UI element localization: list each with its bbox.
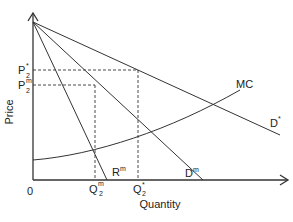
svg-text:Q: Q (89, 183, 98, 195)
q-m-label: Q m 2 (89, 180, 104, 197)
axes (28, 13, 288, 185)
d-m-curve (33, 22, 203, 180)
p-m-label: P m 2 (18, 77, 32, 94)
origin-label: 0 (27, 185, 33, 197)
svg-text:P: P (18, 64, 25, 76)
r-m-label: R m (112, 165, 126, 178)
svg-text:*: * (26, 62, 29, 69)
svg-text:P: P (18, 79, 25, 91)
svg-text:D: D (270, 117, 278, 129)
svg-text:m: m (193, 166, 199, 173)
svg-text:2: 2 (99, 190, 103, 197)
svg-text:2: 2 (142, 190, 146, 197)
economics-diagram: Price Quantity 0 P * 2 P m 2 Q m 2 Q * 2… (0, 0, 293, 222)
q-star-label: Q * 2 (133, 181, 146, 197)
svg-text:D: D (185, 167, 193, 179)
d-star-label: D * (270, 115, 281, 129)
svg-text:R: R (112, 166, 120, 178)
svg-text:*: * (142, 181, 145, 188)
svg-text:m: m (120, 165, 126, 172)
y-axis-label: Price (3, 99, 15, 124)
svg-text:m: m (98, 180, 104, 187)
x-axis-label: Quantity (140, 198, 181, 210)
svg-text:*: * (278, 115, 281, 122)
r-m-curve (33, 22, 107, 180)
mc-curve (33, 90, 240, 160)
svg-text:2: 2 (26, 87, 30, 94)
mc-label: MC (236, 78, 253, 90)
svg-text:m: m (26, 77, 32, 84)
svg-text:Q: Q (133, 183, 142, 195)
d-m-label: D m (185, 166, 199, 179)
